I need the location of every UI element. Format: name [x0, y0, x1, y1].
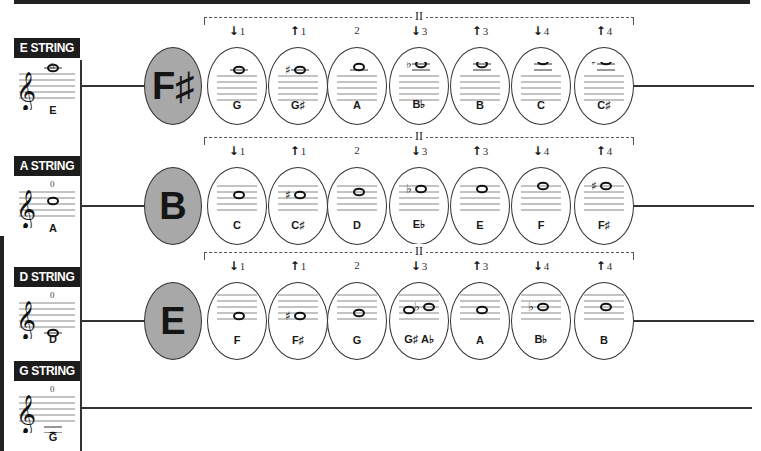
svg-text:𝄞: 𝄞	[17, 299, 36, 339]
open-note-name: A	[43, 222, 63, 234]
top-bar	[14, 0, 750, 4]
note-name: F	[208, 334, 266, 346]
arrow-down-icon: ↓	[229, 24, 239, 38]
note-oval: ♯♭G♯ A♭	[389, 282, 449, 360]
finger-number: ↑1	[278, 144, 318, 158]
svg-text:𝄞: 𝄞	[17, 188, 36, 228]
sidebar-divider	[80, 60, 82, 451]
note-oval: D	[327, 167, 387, 245]
finger-number: 2	[337, 24, 377, 36]
note-oval: ♭B♭	[511, 282, 571, 360]
note-name: B♭	[512, 333, 570, 346]
svg-text:♯: ♯	[285, 63, 291, 77]
finger-number: ↓3	[399, 24, 439, 38]
note-name: B♭	[390, 98, 448, 111]
note-name: G	[208, 99, 266, 111]
finger-digit: 3	[422, 145, 428, 157]
finger-number: ↓1	[217, 259, 257, 273]
finger-digit: 1	[240, 145, 246, 157]
open-note-name: G	[43, 431, 63, 443]
string-line	[82, 407, 752, 409]
finger-number: ↓4	[521, 144, 561, 158]
open-string-staff: 𝄞0D	[17, 289, 75, 349]
note-name: B	[575, 334, 633, 346]
finger-digit: 4	[607, 25, 613, 37]
finger-digit: 4	[544, 25, 550, 37]
finger-digit: 3	[483, 260, 489, 272]
string-line-right	[634, 205, 754, 207]
note-oval: ♯C♯	[268, 167, 328, 245]
finger-number: ↑4	[584, 24, 624, 38]
svg-text:0: 0	[50, 290, 55, 300]
svg-text:0: 0	[50, 179, 55, 189]
finger-number: ↑4	[584, 144, 624, 158]
finger-number: ↓3	[399, 259, 439, 273]
note-oval: F	[207, 282, 267, 360]
finger-number: ↑1	[278, 24, 318, 38]
arrow-up-icon: ↑	[472, 24, 482, 38]
finger-number: 2	[337, 144, 377, 156]
finger-number: ↑3	[460, 144, 500, 158]
finger-digit: 1	[301, 25, 307, 37]
note-oval: ♯C♯	[574, 47, 634, 125]
note-name: E♭	[390, 218, 448, 231]
note-name: C♯	[575, 99, 633, 111]
note-oval: C	[511, 47, 571, 125]
note-oval: A	[450, 282, 510, 360]
svg-text:♯: ♯	[399, 303, 400, 317]
svg-text:♭: ♭	[406, 62, 412, 71]
finger-digit: 4	[607, 260, 613, 272]
note-name: C♯	[269, 219, 327, 231]
finger-digit: 3	[483, 145, 489, 157]
note-oval: F	[511, 167, 571, 245]
note-name: C	[208, 219, 266, 231]
arrow-down-icon: ↓	[229, 259, 239, 273]
note-name: A	[451, 334, 509, 346]
note-name: F♯	[269, 334, 327, 346]
finger-number: ↑4	[584, 259, 624, 273]
finger-number: ↓3	[399, 144, 439, 158]
svg-text:𝄞: 𝄞	[17, 70, 36, 110]
finger-number: ↓1	[217, 144, 257, 158]
note-oval: C	[207, 167, 267, 245]
note-oval: B	[450, 47, 510, 125]
note-oval: ♭E♭	[389, 167, 449, 245]
start-note-oval: B	[144, 167, 202, 245]
svg-text:♯: ♯	[591, 179, 597, 193]
arrow-up-icon: ↑	[472, 144, 482, 158]
position-label: II	[412, 244, 426, 259]
arrow-up-icon: ↑	[596, 144, 606, 158]
open-string-staff: 𝄞0G	[17, 383, 75, 443]
note-oval: A	[327, 47, 387, 125]
note-oval: ♯G♯	[268, 47, 328, 125]
arrow-up-icon: ↑	[290, 259, 300, 273]
svg-text:♯: ♯	[285, 309, 291, 323]
note-oval: ♯F♯	[268, 282, 328, 360]
finger-digit: 1	[301, 145, 307, 157]
open-string-staff: 𝄞0E	[17, 60, 75, 120]
note-name: G	[328, 334, 386, 346]
note-name: D	[328, 219, 386, 231]
finger-digit: 4	[607, 145, 613, 157]
svg-text:♭: ♭	[406, 182, 412, 196]
finger-digit: 2	[354, 144, 360, 156]
start-note-oval: E	[144, 282, 202, 360]
string-label-d: D STRING	[14, 267, 80, 287]
finger-number: ↑3	[460, 24, 500, 38]
string-line-right	[634, 85, 754, 87]
arrow-down-icon: ↓	[411, 144, 421, 158]
note-name: B	[451, 99, 509, 111]
arrow-up-icon: ↑	[290, 24, 300, 38]
note-oval: E	[450, 167, 510, 245]
note-name: F♯	[575, 219, 633, 231]
finger-digit: 3	[422, 25, 428, 37]
note-name: A	[328, 99, 386, 111]
arrow-up-icon: ↑	[472, 259, 482, 273]
note-name: C	[512, 99, 570, 111]
finger-digit: 1	[240, 260, 246, 272]
note-oval: G	[207, 47, 267, 125]
finger-digit: 2	[354, 24, 360, 36]
arrow-down-icon: ↓	[533, 24, 543, 38]
finger-number: ↓1	[217, 24, 257, 38]
note-oval: G	[327, 282, 387, 360]
